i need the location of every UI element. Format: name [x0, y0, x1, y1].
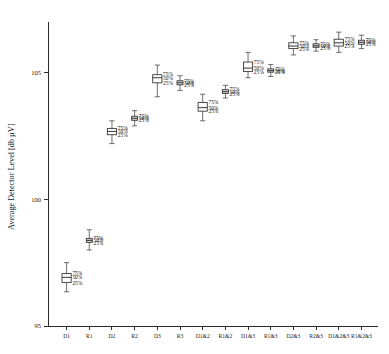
x-tick-label: D3: [154, 333, 161, 339]
percentile-label: 25%: [139, 117, 149, 123]
percentile-label: 25%: [72, 280, 82, 286]
chart-canvas: Average Detector Level [db µV] 95100105 …: [0, 0, 389, 354]
boxplot-R1-2-3: 75%50%25%: [358, 35, 376, 48]
x-tick-label: R2&3: [309, 333, 323, 339]
x-tick-label: D2: [109, 333, 116, 339]
percentile-label: 25%: [254, 69, 264, 75]
y-axis-title: Average Detector Level [db µV]: [7, 123, 16, 230]
x-tick-label: D1&2: [196, 333, 210, 339]
percentile-label: 25%: [163, 80, 173, 86]
percentile-label: 25%: [366, 41, 376, 47]
boxplot-R2-3: 75%50%25%: [313, 40, 331, 51]
boxplot-R1-3: 75%50%25%: [268, 65, 286, 77]
percentile-label: 25%: [118, 132, 128, 138]
x-tick-label: R2: [131, 333, 138, 339]
x-tick-label: D1&2&3: [328, 333, 349, 339]
y-tick-label: 105: [31, 69, 41, 76]
percentile-label: 25%: [208, 108, 218, 114]
box-iqr: [62, 274, 71, 283]
percentile-label: 25%: [345, 43, 355, 49]
percentile-label: 25%: [320, 45, 330, 51]
y-tick-label: 100: [31, 196, 41, 203]
percentile-label: 25%: [299, 46, 309, 52]
x-tick-label: D2&3: [286, 333, 300, 339]
percentile-label: 25%: [275, 69, 285, 75]
percentile-label: 25%: [184, 82, 194, 88]
x-tick-label: R1: [86, 333, 93, 339]
boxplot-chart: Average Detector Level [db µV] 95100105 …: [0, 0, 389, 354]
x-tick-label: R1&2: [219, 333, 233, 339]
box-iqr: [198, 103, 207, 112]
y-tick-label: 95: [35, 322, 42, 329]
box-iqr: [153, 75, 162, 83]
x-tick-label: R3: [177, 333, 184, 339]
x-tick-label: R1&2&3: [351, 333, 372, 339]
x-tick-label: R1&3: [264, 333, 278, 339]
box-iqr: [243, 62, 252, 71]
x-tick-label: D1: [63, 333, 70, 339]
chart-background: [0, 0, 389, 354]
percentile-label: 25%: [230, 91, 240, 97]
boxplot-R1-2: 75%50%25%: [222, 85, 240, 98]
percentile-label: 25%: [93, 240, 103, 246]
x-tick-label: D1&3: [241, 333, 255, 339]
percentile-label: 75%: [254, 59, 264, 65]
